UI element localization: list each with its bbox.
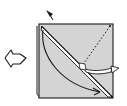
step-arrow-icon: [5, 50, 26, 67]
corner-dot-top-left: [41, 26, 43, 28]
pointer-marker-stem: [50, 15, 53, 20]
origami-diagram: [0, 0, 127, 106]
corner-dot-bottom-right: [111, 96, 113, 98]
pointer-marker-icon: [46, 10, 53, 17]
pull-out-arrowhead-icon: [111, 66, 119, 73]
corner-dot-top-right: [109, 25, 111, 27]
fold-tab: [79, 63, 86, 70]
